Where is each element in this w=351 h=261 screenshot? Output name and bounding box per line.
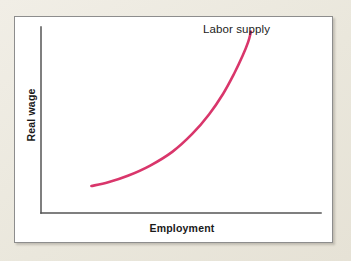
chart-canvas xyxy=(15,17,334,244)
figure-panel: Labor supply Real wage Employment xyxy=(14,16,333,243)
curve-annotation-label: Labor supply xyxy=(203,23,270,35)
x-axis-label: Employment xyxy=(107,222,257,234)
y-axis-label: Real wage xyxy=(25,79,37,151)
page-background: Labor supply Real wage Employment xyxy=(0,0,351,261)
labor-supply-curve xyxy=(91,32,251,186)
plot-area xyxy=(15,17,334,244)
